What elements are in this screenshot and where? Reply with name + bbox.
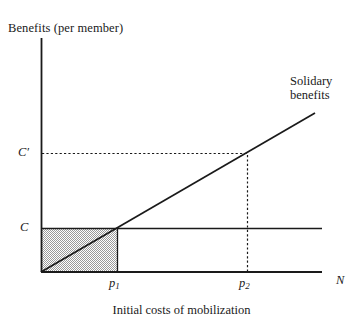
x-tick-label-p1: p1 [109,277,120,291]
figure-container: Benefits (per member) Solidary benefits … [0,0,363,327]
x-tick-label-p1-subscript: 1 [115,281,120,291]
y-axis-title: Benefits (per member) [8,22,123,35]
series-annotation-line2: benefits [290,88,332,102]
x-tick-label-p2-subscript: 2 [245,281,250,291]
x-tick-label-p2: p2 [239,277,250,291]
series-annotation-line1: Solidary [290,74,332,88]
y-tick-label-c-prime: C′ [18,146,29,159]
x-axis-caption: Initial costs of mobilization [0,304,363,317]
series-annotation: Solidary benefits [290,74,332,102]
solidary-benefits-line [41,113,315,272]
y-tick-label-c: C [20,221,28,234]
chart-svg [0,0,363,327]
x-axis-end-label-n: N [336,274,344,287]
